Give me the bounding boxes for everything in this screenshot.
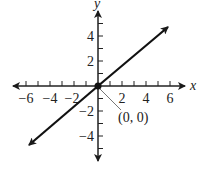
y-tick-label: −4 bbox=[79, 129, 94, 144]
x-tick-label: 6 bbox=[167, 91, 174, 106]
x-tick-label: −4 bbox=[43, 91, 58, 106]
origin-point bbox=[95, 83, 102, 90]
y-tick-label: −2 bbox=[79, 104, 94, 119]
x-tick-label: 2 bbox=[119, 91, 126, 106]
y-tick-label: 2 bbox=[87, 54, 94, 69]
line-series bbox=[98, 27, 168, 86]
coordinate-plane: −6 −4 −2 2 4 6 4 2 −2 −4 x y (0, 0) bbox=[0, 0, 210, 185]
x-tick-label: −6 bbox=[19, 91, 34, 106]
x-tick-label: 4 bbox=[143, 91, 150, 106]
origin-annotation: (0, 0) bbox=[118, 110, 149, 126]
y-tick-label: 4 bbox=[87, 29, 94, 44]
y-axis-label: y bbox=[92, 0, 101, 11]
x-axis-label: x bbox=[189, 78, 197, 93]
